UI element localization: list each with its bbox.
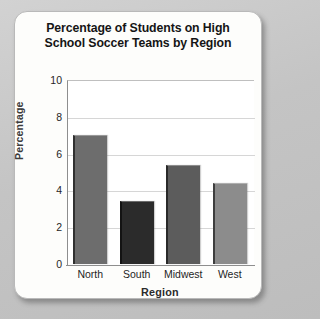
y-axis-tick-label: 10 xyxy=(36,74,62,86)
y-axis-tick-label: 8 xyxy=(36,111,62,123)
y-axis-tick-label: 0 xyxy=(36,258,62,270)
chart-title-line-1: Percentage of Students on High xyxy=(25,21,251,36)
x-axis-tick-label: West xyxy=(200,268,260,280)
plot-area: Percentage 1086420 NorthSouthMidwestWest… xyxy=(15,64,263,300)
x-axis-label: Region xyxy=(67,286,253,298)
y-axis-tick-label: 2 xyxy=(36,221,62,233)
bars-group xyxy=(67,80,253,264)
x-axis-tick-labels: NorthSouthMidwestWest xyxy=(67,268,253,284)
y-axis-tick-label: 4 xyxy=(36,184,62,196)
y-axis-tick-label: 6 xyxy=(36,148,62,160)
chart-card: Percentage of Students on High School So… xyxy=(14,11,262,299)
bar-north xyxy=(73,135,107,264)
x-axis-line xyxy=(66,265,255,266)
bar-south xyxy=(120,201,154,264)
bar-midwest xyxy=(166,165,200,264)
chart-title-line-2: School Soccer Teams by Region xyxy=(25,36,251,51)
y-axis-label: Percentage xyxy=(13,101,25,160)
chart-title: Percentage of Students on High School So… xyxy=(25,21,251,51)
bar-west xyxy=(213,183,247,264)
